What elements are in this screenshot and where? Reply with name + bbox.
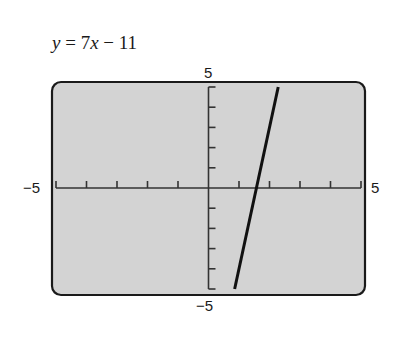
calculator-screen bbox=[0, 0, 402, 343]
y-min-label: −5 bbox=[196, 298, 213, 313]
x-min-label: −5 bbox=[23, 180, 40, 195]
y-max-label: 5 bbox=[204, 65, 212, 80]
x-max-label: 5 bbox=[371, 180, 379, 195]
